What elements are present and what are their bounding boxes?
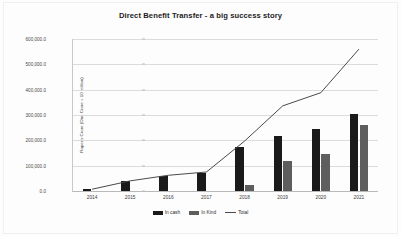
chart-container: Direct Benefit Transfer - a big success … [0, 0, 401, 236]
y-tick-label: 600,000.0 [0, 37, 46, 42]
gridline [73, 191, 378, 192]
x-tick-label: 2019 [277, 195, 288, 200]
legend-item[interactable]: In cash [153, 210, 180, 215]
x-tick-label: 2018 [239, 195, 250, 200]
chart-legend: In cashIn KindTotal [0, 210, 401, 215]
y-tick-label: 0.0 [0, 189, 46, 194]
total-line-path [92, 49, 359, 189]
legend-label: In Kind [201, 210, 216, 215]
chart-title: Direct Benefit Transfer - a big success … [0, 11, 401, 20]
x-tick-label: 2021 [354, 195, 365, 200]
y-tick-label: 300,000.0 [0, 113, 46, 118]
x-tick-label: 2014 [87, 195, 98, 200]
legend-swatch-icon [153, 211, 163, 215]
legend-swatch-icon [225, 212, 236, 213]
y-tick-label: 200,000.0 [0, 138, 46, 143]
x-tick-label: 2016 [163, 195, 174, 200]
y-tick-label: 500,000.0 [0, 62, 46, 67]
x-tick-label: 2020 [315, 195, 326, 200]
total-line-series [73, 39, 378, 191]
y-tick-label: 100,000.0 [0, 163, 46, 168]
y-tick-label: 400,000.0 [0, 87, 46, 92]
legend-item[interactable]: Total [225, 210, 248, 215]
legend-label: In cash [165, 210, 180, 215]
x-tick-label: 2017 [201, 195, 212, 200]
legend-item[interactable]: In Kind [189, 210, 216, 215]
legend-label: Total [238, 210, 248, 215]
x-tick-label: 2015 [125, 195, 136, 200]
legend-swatch-icon [189, 211, 199, 215]
plot-area: Rupees Crore (One Crore = 10 million) 0.… [73, 39, 378, 191]
